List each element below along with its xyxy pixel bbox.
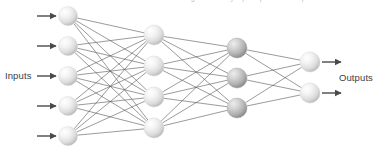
connection-edge: [75, 72, 146, 130]
connection-edge: [247, 64, 300, 76]
connection-edge: [77, 129, 144, 135]
connection-edge: [77, 18, 144, 33]
network-node: [227, 38, 247, 58]
network-node: [144, 87, 164, 107]
network-node: [59, 37, 78, 56]
network-node: [144, 56, 164, 76]
inputs-label: Inputs: [5, 70, 31, 81]
connection-edge: [162, 42, 230, 102]
connection-edge: [161, 55, 230, 121]
network-node: [227, 68, 247, 88]
connection-edge: [164, 110, 228, 125]
network-node: [300, 52, 320, 72]
connection-edge: [74, 24, 148, 121]
network-node: [227, 98, 247, 118]
connection-edge: [163, 40, 228, 74]
network-node: [59, 97, 78, 116]
connection-edge: [247, 50, 300, 60]
connection-edge: [163, 83, 229, 123]
connection-edge: [164, 67, 227, 76]
connection-edge: [246, 53, 302, 88]
connection-edges: [74, 18, 302, 135]
network-node: [144, 118, 164, 138]
outputs-label: Outputs: [339, 72, 373, 83]
network-node: [59, 127, 78, 146]
connection-edge: [163, 53, 229, 92]
connection-edge: [164, 98, 227, 106]
connection-edge: [164, 80, 228, 95]
network-node: [59, 7, 78, 26]
connection-edge: [77, 36, 144, 45]
input-arrows: [37, 16, 56, 136]
connection-edge: [245, 67, 301, 102]
connection-edge: [247, 80, 300, 91]
network-node: [144, 25, 164, 45]
network-graphic: [0, 0, 384, 155]
connection-edge: [76, 21, 145, 61]
neural-network-diagram: a single hidden layer perceptron with ou…: [0, 0, 384, 155]
network-node: [59, 67, 78, 86]
network-node: [300, 83, 320, 103]
connection-edge: [77, 39, 145, 72]
